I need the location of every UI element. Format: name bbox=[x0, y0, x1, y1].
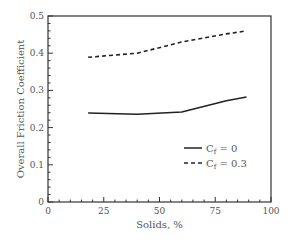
x-tick-label: 100 bbox=[262, 206, 279, 216]
data-series bbox=[88, 31, 246, 114]
x-tick-label: 0 bbox=[45, 206, 51, 216]
legend: Cf = 0Cf = 0.3 bbox=[184, 143, 247, 171]
y-tick-label: 0.3 bbox=[30, 85, 45, 95]
y-tick-label: 0.4 bbox=[30, 48, 45, 58]
x-axis-label: Solids, % bbox=[136, 219, 183, 230]
y-tick-label: 0.1 bbox=[30, 160, 44, 170]
x-tick-label: 50 bbox=[154, 206, 166, 216]
x-tick-label: 75 bbox=[210, 206, 222, 216]
legend-label: Cf = 0 bbox=[206, 143, 237, 156]
axis-ticks bbox=[48, 16, 271, 202]
x-tick-label: 25 bbox=[98, 206, 110, 216]
series-line-cf-0 bbox=[88, 97, 246, 114]
plot-area-border bbox=[48, 16, 271, 202]
friction-coefficient-chart: 025507510000.10.20.30.40.5 Cf = 0Cf = 0.… bbox=[0, 0, 291, 242]
legend-label: Cf = 0.3 bbox=[206, 158, 247, 171]
y-tick-label: 0 bbox=[38, 197, 44, 207]
y-tick-label: 0.5 bbox=[30, 11, 45, 21]
y-tick-label: 0.2 bbox=[30, 123, 44, 133]
plot-frame bbox=[48, 16, 271, 202]
y-axis-label: Overall Friction Coefficient bbox=[15, 40, 26, 179]
series-line-cf-0-3 bbox=[88, 31, 246, 57]
